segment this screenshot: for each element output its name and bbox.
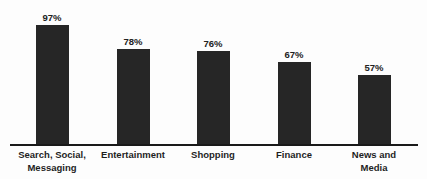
bar-value-label-2: 76% <box>203 38 222 49</box>
bar-rect-3 <box>278 62 311 146</box>
bar-rect-4 <box>358 75 391 146</box>
bar-value-label-4: 57% <box>364 62 383 73</box>
plot-area: 97% 78% 76% 67% 57% <box>0 0 427 146</box>
bar-value-label-3: 67% <box>284 49 303 60</box>
bar-rect-0 <box>36 25 69 146</box>
bar-value-label-1: 78% <box>123 36 142 47</box>
bar-group-4: 57% <box>334 0 414 146</box>
bar-chart: 97% 78% 76% 67% 57% <box>0 0 427 179</box>
category-axis-labels: Search, Social, Messaging Entertainment … <box>0 148 427 179</box>
bar-rect-2 <box>197 51 230 146</box>
x-axis-line <box>10 144 418 146</box>
bar-group-0: 97% <box>12 0 92 146</box>
category-label-4: News and Media <box>326 148 422 174</box>
bar-group-3: 67% <box>254 0 334 146</box>
bar-group-1: 78% <box>93 0 173 146</box>
bar-value-label-0: 97% <box>42 12 61 23</box>
bar-rect-1 <box>117 49 150 146</box>
bar-group-2: 76% <box>173 0 253 146</box>
